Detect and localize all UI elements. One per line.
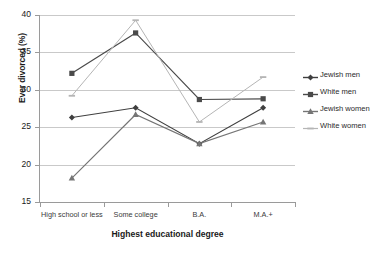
- data-point-square: [308, 92, 313, 97]
- data-point-diamond: [308, 75, 314, 81]
- series-line: [72, 33, 263, 100]
- data-point-square: [261, 96, 266, 101]
- data-point-triangle: [260, 119, 266, 125]
- legend-marker-line-icon: [303, 120, 318, 131]
- x-tick-label: High school or less: [40, 210, 104, 219]
- legend-label: Jewish men: [320, 69, 360, 80]
- y-tick-label: 40: [0, 9, 31, 19]
- legend-item-white-women[interactable]: White women: [303, 117, 383, 134]
- data-point-line: [307, 128, 313, 130]
- x-tick-mark: [168, 203, 169, 207]
- line-chart: Ever divorced (%) 403530252015 High scho…: [0, 0, 383, 253]
- series-white-men: [69, 30, 265, 102]
- series-jewish-women: [69, 111, 267, 180]
- data-point-square: [133, 30, 138, 35]
- x-tick-label: B.A.: [168, 210, 232, 219]
- x-tick-mark: [104, 203, 105, 207]
- y-tick-label: 15: [0, 196, 31, 206]
- series-plot: [40, 15, 295, 202]
- x-axis-title: Highest educational degree: [39, 229, 296, 239]
- data-point-line: [132, 19, 138, 21]
- legend-item-jewish-men[interactable]: Jewish men: [303, 66, 383, 83]
- data-point-line: [69, 95, 75, 97]
- y-tick-label: 35: [0, 46, 31, 56]
- data-point-diamond: [69, 114, 75, 120]
- y-tick-label: 20: [0, 159, 31, 169]
- y-tick-label: 30: [0, 84, 31, 94]
- x-tick-label: M.A.+: [231, 210, 295, 219]
- legend-item-jewish-women[interactable]: Jewish women: [303, 100, 383, 117]
- legend-marker-square-icon: [303, 86, 318, 97]
- x-tick-mark: [295, 203, 296, 207]
- legend-label: White women: [320, 120, 366, 131]
- series-white-women: [69, 19, 267, 123]
- chart-legend: Jewish menWhite menJewish womenWhite wom…: [303, 66, 383, 134]
- data-point-diamond: [260, 105, 266, 111]
- series-jewish-men: [69, 105, 266, 147]
- legend-marker-triangle-icon: [303, 103, 318, 114]
- data-point-line: [260, 76, 266, 78]
- legend-label: White men: [320, 86, 356, 97]
- y-tick-label: 25: [0, 121, 31, 131]
- legend-item-white-men[interactable]: White men: [303, 83, 383, 100]
- series-line: [72, 20, 263, 122]
- data-point-diamond: [133, 105, 139, 111]
- data-point-triangle: [132, 111, 138, 117]
- x-tick-mark: [231, 203, 232, 207]
- data-point-square: [69, 71, 74, 76]
- series-line: [72, 108, 263, 144]
- x-tick-mark: [40, 203, 41, 207]
- data-point-square: [197, 97, 202, 102]
- legend-marker-diamond-icon: [303, 69, 318, 80]
- y-axis-title: Ever divorced (%): [17, 8, 27, 128]
- x-tick-label: Some college: [104, 210, 168, 219]
- legend-label: Jewish women: [320, 103, 370, 114]
- data-point-line: [196, 121, 202, 123]
